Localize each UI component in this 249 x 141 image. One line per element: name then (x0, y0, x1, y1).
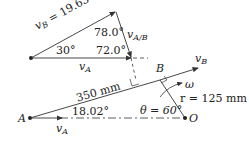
kinematics-diagram: vB = 19.63 m/s 78.0° vA/B 30° 72.0° vA B… (0, 0, 249, 141)
point-O-label: O (189, 113, 198, 124)
angle-left-label: 30° (56, 45, 76, 56)
vAB-label: vA/B (127, 29, 148, 40)
angle-top-label: 78.0° (94, 27, 124, 38)
vA-triangle-label: vA (79, 61, 91, 72)
vAB-subscript: A/B (133, 33, 147, 42)
omega-label: ω (185, 79, 194, 90)
vA-velocity-label: vA (56, 123, 68, 134)
vA-subscript: A (85, 65, 91, 74)
vB-subscript-2: B (201, 57, 207, 66)
point-A-label: A (18, 113, 26, 124)
angle-A-label: 18.02° (72, 106, 109, 117)
vB-velocity-label: vB (195, 53, 207, 64)
radius-label: r = 125 mm (180, 93, 247, 104)
vA-subscript-2: A (62, 127, 68, 136)
point-O-dot (183, 116, 187, 120)
right-angle-mark-1 (130, 79, 139, 86)
vAB-extension (131, 58, 136, 80)
theta-label: θ = 60° (140, 105, 182, 116)
point-B-label: B (156, 63, 164, 74)
angle-right-label: 72.0° (96, 45, 126, 56)
